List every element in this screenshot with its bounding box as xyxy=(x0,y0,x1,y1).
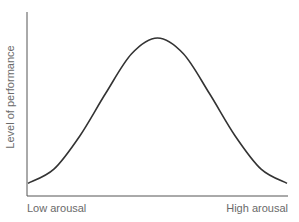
x-axis-high-label: High arousal xyxy=(226,202,288,214)
performance-curve xyxy=(28,38,287,183)
x-axis-low-label: Low arousal xyxy=(27,202,86,214)
chart-canvas xyxy=(0,0,299,222)
y-axis-label: Level of performance xyxy=(4,45,16,148)
